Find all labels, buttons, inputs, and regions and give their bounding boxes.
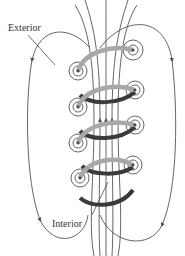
interior-label: Interior — [52, 218, 82, 229]
solenoid-diagram: Exterior Interior — [0, 0, 185, 256]
exterior-label: Exterior — [8, 22, 41, 33]
field-lines-graphic — [0, 0, 185, 256]
